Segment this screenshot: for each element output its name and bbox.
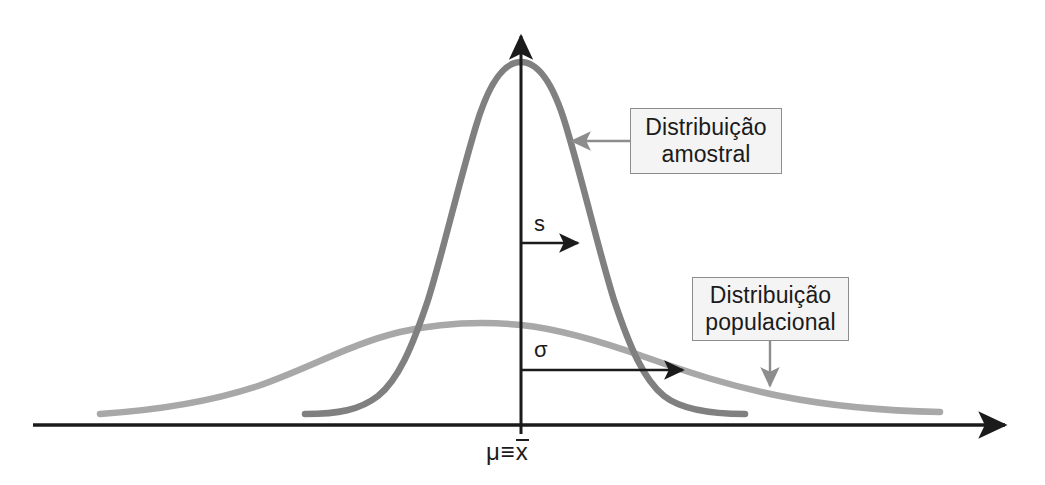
callout-population-line1: Distribuição bbox=[710, 282, 831, 309]
equivalent-symbol: ≡ bbox=[501, 438, 516, 465]
sample-std-dev-label: s bbox=[534, 211, 545, 237]
center-axis-label: μ≡x bbox=[486, 438, 529, 466]
x-bar-symbol: x bbox=[516, 438, 529, 466]
callout-sampling-line2: amostral bbox=[662, 141, 751, 168]
figure-canvas bbox=[0, 0, 1045, 485]
callout-population-distribution: Distribuição populacional bbox=[692, 277, 849, 341]
statistics-figure: Distribuição amostral Distribuição popul… bbox=[0, 0, 1045, 485]
population-std-dev-label: σ bbox=[534, 337, 548, 363]
callout-sampling-line1: Distribuição bbox=[645, 114, 766, 141]
callout-sampling-distribution: Distribuição amostral bbox=[630, 108, 782, 174]
mu-symbol: μ bbox=[486, 438, 501, 465]
callout-population-line2: populacional bbox=[705, 309, 835, 336]
